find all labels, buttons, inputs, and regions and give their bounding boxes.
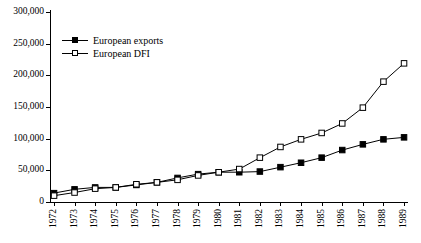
- data-point-exports: [340, 147, 346, 153]
- data-point-dfi: [401, 61, 407, 67]
- data-point-dfi: [257, 155, 263, 161]
- filled-square-icon: [62, 35, 88, 46]
- data-point-exports: [319, 155, 325, 161]
- data-point-exports: [298, 160, 304, 166]
- data-point-dfi: [298, 137, 304, 143]
- data-point-dfi: [92, 186, 98, 192]
- data-point-dfi: [134, 182, 140, 188]
- legend-label-dfi: European DFI: [93, 47, 150, 60]
- data-point-dfi: [72, 190, 78, 196]
- data-point-dfi: [175, 177, 181, 183]
- data-point-exports: [278, 164, 284, 170]
- chart-legend: European exports European DFI: [62, 34, 163, 60]
- data-point-dfi: [195, 173, 201, 179]
- series-line-dfi: [54, 63, 404, 195]
- data-point-exports: [257, 169, 263, 175]
- open-square-icon: [62, 48, 88, 59]
- chart-container: 050,000100,000150,000200,000250,000300,0…: [0, 0, 421, 243]
- data-point-dfi: [113, 185, 119, 191]
- data-point-dfi: [237, 166, 243, 172]
- data-point-exports: [401, 135, 407, 141]
- data-point-dfi: [216, 170, 222, 176]
- legend-label-exports: European exports: [93, 34, 163, 47]
- data-point-dfi: [360, 105, 366, 111]
- data-point-dfi: [319, 130, 325, 136]
- data-point-dfi: [278, 144, 284, 150]
- data-point-dfi: [51, 193, 57, 199]
- data-point-dfi: [381, 79, 387, 85]
- data-point-dfi: [340, 121, 346, 127]
- data-point-dfi: [154, 180, 160, 186]
- series-line-exports: [54, 137, 404, 193]
- legend-item-dfi: European DFI: [62, 47, 163, 60]
- data-point-exports: [381, 137, 387, 143]
- legend-item-exports: European exports: [62, 34, 163, 47]
- data-point-exports: [360, 142, 366, 148]
